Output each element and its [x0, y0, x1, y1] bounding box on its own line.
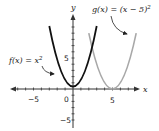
f-arrow-icon: [42, 66, 54, 74]
g-curve: [89, 33, 136, 89]
y-axis-arrow-icon: [71, 14, 76, 20]
x-axis-arrow-icon: [134, 87, 140, 92]
chart-canvas: x −5 0 5 y 5 −5: [0, 0, 159, 131]
g-label: g(x) = (x − 5)2: [92, 4, 151, 14]
x-tick-label-0: 0: [64, 95, 69, 104]
x-axis: x −5 0 5: [10, 85, 148, 105]
g-arrow-icon: [111, 16, 127, 34]
x-axis-label: x: [143, 85, 148, 94]
y-tick-label-neg5: −5: [60, 116, 71, 125]
y-axis-label: y: [70, 3, 76, 12]
f-label: f(x) = x2: [8, 55, 43, 65]
g-annotation: g(x) = (x − 5)2: [92, 4, 151, 34]
x-axis-left-arrow-icon: [10, 87, 16, 92]
f-annotation: f(x) = x2: [8, 55, 54, 74]
y-tick-label-5: 5: [64, 54, 69, 63]
x-tick-label-neg5: −5: [28, 95, 39, 104]
x-tick-label-5: 5: [110, 96, 115, 105]
y-axis: y 5 −5: [60, 3, 76, 128]
